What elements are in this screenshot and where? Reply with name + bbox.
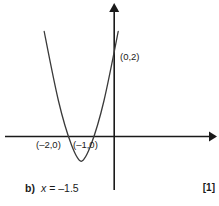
- marks-badge: [1]: [203, 182, 215, 193]
- y-axis-arrow-icon: [109, 3, 119, 12]
- answer-text: x = –1.5: [41, 182, 79, 194]
- answer-relation: =: [49, 182, 55, 194]
- graph-figure: (–2,0) (–1,0) (0,2): [0, 0, 219, 206]
- answer-variable: x: [41, 182, 46, 194]
- point-label-root-left: (–2,0): [36, 139, 61, 150]
- point-label-y-intercept: (0,2): [120, 51, 140, 62]
- answer-value: –1.5: [58, 182, 78, 194]
- x-axis-arrow-icon: [209, 132, 217, 142]
- graph-canvas: (–2,0) (–1,0) (0,2): [0, 0, 219, 206]
- answer-line: b) x = –1.5 [1]: [0, 182, 219, 202]
- answer-part-label: b): [25, 182, 35, 194]
- point-label-root-right: (–1,0): [73, 139, 98, 150]
